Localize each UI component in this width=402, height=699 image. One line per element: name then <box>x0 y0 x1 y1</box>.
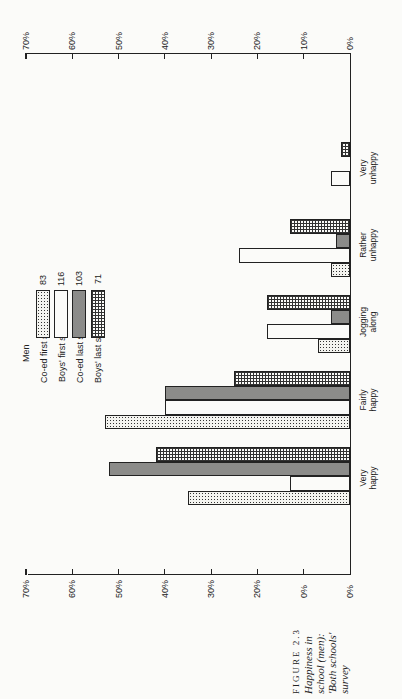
bottom_axis-tick-label: 0% <box>299 585 309 598</box>
bottom_axis-tick-label: 50% <box>114 580 124 598</box>
bar-coed-last <box>109 462 350 477</box>
top_axis-tick-label: 40% <box>160 32 170 50</box>
bar-boys-last <box>156 447 350 462</box>
bar-boys-last <box>341 142 350 157</box>
bottom_axis-tick-label: 70% <box>21 580 31 598</box>
legend-count-boys-last: 71 <box>93 274 103 284</box>
bar-coed-last <box>336 234 350 249</box>
top_axis-tick <box>164 53 165 59</box>
figure-caption: FIGURE 2.3 Happiness in school (men): 'B… <box>290 628 350 694</box>
bottom_axis-tick-label: 60% <box>67 580 77 598</box>
category-label-line1: Jogging <box>358 304 368 340</box>
top_axis-tick-label: 0% <box>345 37 355 50</box>
legend-swatch-boys-first <box>54 290 68 338</box>
bottom_axis-tick-label: 20% <box>252 580 262 598</box>
caption-line-3: 'Both schools' <box>326 628 338 694</box>
bottom_axis-tick <box>25 569 26 575</box>
bottom_axis-tick <box>118 569 119 575</box>
category-label-line1: Fairly <box>358 382 368 418</box>
top_axis-tick <box>257 53 258 59</box>
baseline <box>350 53 351 575</box>
top_axis-tick-label: 20% <box>252 32 262 50</box>
category-label: Ratherunhappy <box>358 227 378 263</box>
category-label: Veryhappy <box>358 460 378 496</box>
top_axis-tick-label: 50% <box>114 32 124 50</box>
top_axis-tick-label: 70% <box>21 32 31 50</box>
caption-line-4: survey <box>338 628 350 694</box>
top_axis-tick <box>118 53 119 59</box>
top_axis-tick <box>211 53 212 59</box>
bottom_axis-tick <box>211 569 212 575</box>
legend-swatch-boys-last <box>91 290 105 338</box>
bar-boys-first <box>267 324 350 339</box>
bottom_axis-tick-label: 40% <box>160 580 170 598</box>
bar-coed-first <box>331 263 350 278</box>
caption-line-2: school (men): <box>314 628 326 694</box>
category-label-line2: along <box>368 304 378 340</box>
bar-boys-first <box>239 248 350 263</box>
bar-boys-first <box>290 476 350 491</box>
category-label-line1: Rather <box>358 227 368 263</box>
bar-coed-last <box>331 310 350 325</box>
category-label-line2: happy <box>368 382 378 418</box>
category-label: Joggingalong <box>358 304 378 340</box>
category-label-line2: happy <box>368 460 378 496</box>
legend-count-boys-first: 116 <box>56 272 66 286</box>
category-label-line1: Very <box>358 150 368 186</box>
bar-coed-first <box>318 339 350 354</box>
legend-swatch-coed-last <box>72 290 86 338</box>
bottom_axis-tick <box>303 569 304 575</box>
top_axis-tick <box>303 53 304 59</box>
bottom_axis-tick-label: 30% <box>206 580 216 598</box>
top_axis-tick <box>72 53 73 59</box>
bottom_axis-tick <box>164 569 165 575</box>
caption-line-1: Happiness in <box>302 628 314 694</box>
bar-boys-last <box>267 295 350 310</box>
bar-boys-last <box>290 219 350 234</box>
legend-title: Men <box>21 344 31 362</box>
category-label: Veryunhappy <box>358 150 378 186</box>
category-label: Fairlyhappy <box>358 382 378 418</box>
bar-coed-first <box>105 415 350 430</box>
caption-figure-number: FIGURE 2.3 <box>290 628 302 694</box>
top_axis-tick <box>25 53 26 59</box>
top_axis-tick-label: 60% <box>67 32 77 50</box>
bottom_axis-tick <box>72 569 73 575</box>
legend-count-coed-first: 83 <box>38 275 48 285</box>
bottom_axis-tick-label: 0% <box>345 585 355 598</box>
bar-coed-last <box>165 386 350 401</box>
top_axis-tick-label: 10% <box>299 32 309 50</box>
bar-coed-first <box>188 491 350 506</box>
bar-boys-first <box>331 171 350 186</box>
legend-count-coed-last: 103 <box>74 271 84 286</box>
bottom_axis-tick <box>350 569 351 575</box>
bar-boys-first <box>165 400 350 415</box>
category-label-line1: Very <box>358 460 368 496</box>
category-label-line2: unhappy <box>368 150 378 186</box>
bottom_axis-tick <box>257 569 258 575</box>
bar-boys-last <box>234 371 350 386</box>
legend-swatch-coed-first <box>36 290 50 338</box>
top_axis-tick-label: 30% <box>206 32 216 50</box>
category-label-line2: unhappy <box>368 227 378 263</box>
